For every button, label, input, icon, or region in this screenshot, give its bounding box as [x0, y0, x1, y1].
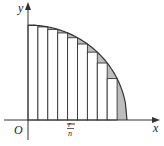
inscribed-rectangle — [68, 38, 78, 120]
inscribed-rectangle — [107, 79, 117, 120]
inscribed-rectangle — [38, 27, 48, 120]
inscribed-rectangle — [58, 33, 68, 120]
inscribed-rectangle — [48, 29, 58, 120]
fraction-numerator: r — [68, 121, 71, 129]
quarter-circle-diagram — [0, 0, 164, 146]
y-axis-arrow-icon — [25, 2, 31, 10]
x-axis-label: x — [153, 122, 158, 134]
inscribed-rectangle — [78, 44, 88, 120]
origin-label: O — [14, 124, 23, 136]
inscribed-rectangles — [28, 25, 117, 120]
inscribed-rectangle — [87, 52, 97, 120]
inscribed-rectangle — [28, 25, 38, 120]
fraction-denominator: n — [68, 130, 72, 138]
inscribed-rectangle — [97, 63, 107, 120]
y-axis-label: y — [18, 2, 23, 14]
